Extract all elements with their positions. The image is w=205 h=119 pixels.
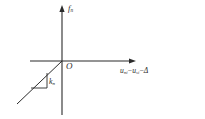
figure-container: fn O kn uni−usi−Δ — [0, 0, 205, 119]
slope-label: kn — [49, 78, 55, 86]
x-axis-term2-subscript: si — [136, 70, 139, 75]
x-axis-label: uni−usi−Δ — [120, 67, 148, 75]
y-axis-arrow-icon — [59, 5, 64, 12]
x-axis-term3-delta: Δ — [144, 66, 149, 75]
diagram-canvas — [0, 0, 205, 119]
x-axis-arrow-icon — [129, 58, 136, 63]
y-axis-label: fn — [68, 4, 73, 13]
origin-label: O — [66, 62, 73, 71]
plot-line-fn — [17, 61, 62, 104]
slope-label-subscript: n — [53, 81, 55, 86]
x-axis-term1-subscript: ni — [124, 70, 128, 75]
y-axis-label-subscript: n — [70, 7, 73, 13]
